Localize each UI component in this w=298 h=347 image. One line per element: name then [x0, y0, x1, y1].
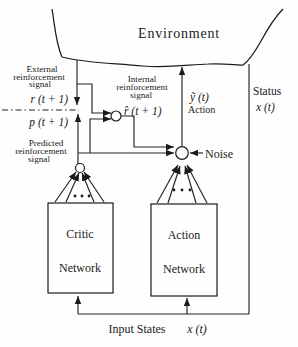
critic-box-label-line2: Network: [59, 261, 101, 275]
predicted-signal-label-line3: signal: [28, 154, 50, 164]
action-output-symbol: ỹ (t): [189, 91, 209, 104]
action-network-box: [151, 204, 217, 296]
ellipsis-dot: [88, 195, 91, 198]
ellipsis-dot: [189, 189, 192, 192]
external-to-internal-branch-arrow: [77, 84, 111, 113]
internal-reinforcement-to-action-arrow: [121, 116, 174, 147]
input-states-symbol: x (t): [186, 322, 207, 336]
internal-reinforcement-symbol: r̂ (t + 1): [124, 105, 162, 118]
external-signal-label-line3: signal: [29, 79, 51, 89]
internal-reinforcement-node: [111, 111, 121, 121]
action-box-label-line1: Action: [168, 228, 201, 242]
ellipsis-dot: [81, 195, 84, 198]
ellipsis-dot: [74, 195, 77, 198]
critic-network-box: [48, 203, 113, 293]
ellipsis-dot: [181, 189, 184, 192]
action-neuron-node: [176, 147, 189, 160]
status-symbol: x (t): [255, 101, 275, 114]
environment-label: Environment: [138, 26, 220, 41]
status-label: Status: [253, 85, 282, 97]
diagram-canvas: Environment: [0, 0, 298, 347]
external-reinforcement-symbol: r (t + 1): [31, 93, 69, 106]
action-output-caption: Action: [188, 104, 215, 115]
predicted-reinforcement-symbol: p (t + 1): [28, 116, 68, 129]
critic-box-label-line1: Critic: [66, 227, 93, 241]
internal-signal-label-line3: signal: [130, 90, 152, 100]
prediction-to-internal-branch-arrow: [90, 119, 111, 153]
noise-label: Noise: [205, 147, 233, 161]
action-fan-arrow: [157, 165, 178, 203]
critic-fan-arrow: [84, 172, 104, 202]
action-box-label-line2: Network: [163, 262, 205, 276]
actor-critic-figure: Environment: [0, 0, 298, 347]
critic-neuron-node: [76, 164, 85, 173]
input-states-label: Input States: [109, 322, 166, 336]
ellipsis-dot: [173, 189, 176, 192]
